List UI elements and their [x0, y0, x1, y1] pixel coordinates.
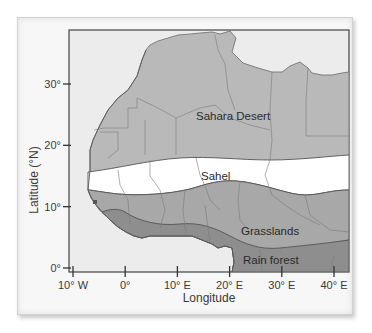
region-label-sahara-desert: Sahara Desert	[196, 110, 271, 122]
y-tick-label: 30°	[44, 78, 61, 90]
x-tick-label: 40° E	[320, 279, 347, 291]
x-axis-title: Longitude	[183, 291, 236, 305]
y-axis-title: Latitude (°N)	[27, 146, 41, 214]
africa-biome-map: 0°10°20°30° 10° W0°10° E20° E30° E40° E …	[0, 0, 372, 333]
coastal-marker	[93, 200, 97, 204]
region-label-grasslands: Grasslands	[241, 225, 299, 237]
y-tick-label: 20°	[44, 139, 61, 151]
region-label-rain-forest: Rain forest	[243, 254, 299, 266]
y-axis: 0°10°20°30°	[44, 78, 71, 274]
x-tick-label: 30° E	[268, 279, 295, 291]
region-label-sahel: Sahel	[201, 170, 230, 182]
x-tick-label: 0°	[120, 279, 131, 291]
x-tick-label: 10° W	[58, 279, 89, 291]
x-tick-label: 10° E	[164, 279, 191, 291]
y-tick-label: 10°	[44, 201, 61, 213]
x-tick-label: 20° E	[216, 279, 243, 291]
y-tick-label: 0°	[50, 262, 61, 274]
